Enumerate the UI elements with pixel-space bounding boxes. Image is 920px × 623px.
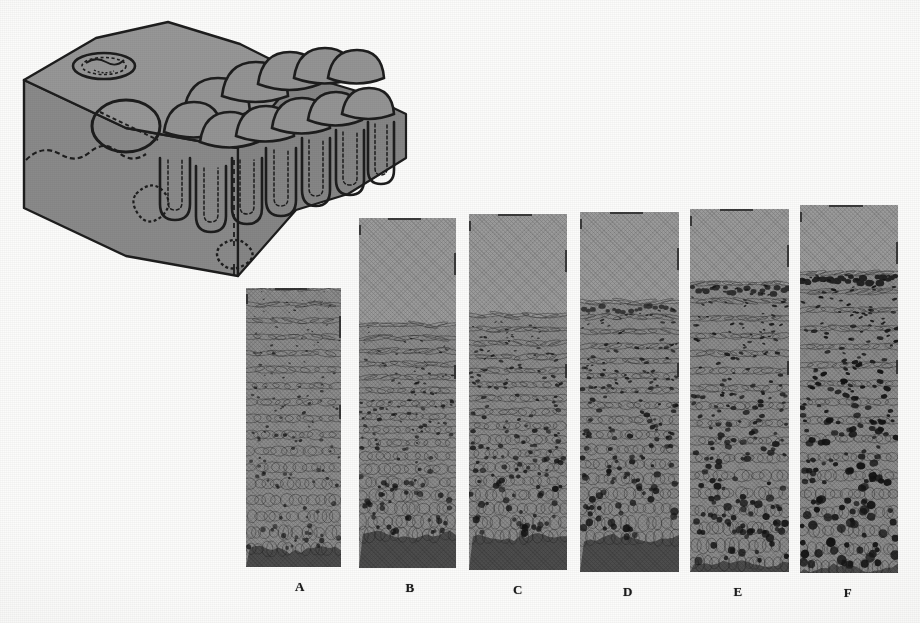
panel-c: [469, 214, 567, 570]
panel-label-c: C: [498, 582, 538, 598]
scan-edge-artifact: [896, 360, 898, 374]
histology-panel-strip: ABCDEF: [0, 0, 920, 623]
scan-edge-artifact: [800, 212, 802, 222]
panel-b-plate: [359, 218, 456, 568]
scan-edge-artifact: [677, 248, 679, 270]
scan-edge-artifact: [896, 242, 898, 264]
scan-edge-artifact: [677, 363, 679, 377]
scan-top-registration-bar: [610, 212, 644, 214]
panel-e-plate: [690, 209, 789, 572]
panel-d-plate: [580, 212, 679, 572]
scan-edge-artifact: [787, 245, 789, 267]
scan-edge-artifact: [565, 250, 567, 272]
panel-label-b: B: [390, 580, 430, 596]
panel-f-plate: [800, 205, 898, 573]
scan-edge-artifact: [339, 405, 341, 419]
scan-top-registration-bar: [388, 218, 421, 220]
panel-label-e: E: [718, 584, 758, 600]
scan-top-registration-bar: [275, 288, 307, 290]
scan-edge-artifact: [246, 294, 248, 304]
scan-edge-artifact: [454, 365, 456, 379]
scan-edge-artifact: [454, 253, 456, 275]
scan-top-registration-bar: [720, 209, 754, 211]
panel-label-d: D: [608, 584, 648, 600]
panel-c-plate: [469, 214, 567, 570]
scan-edge-artifact: [359, 225, 361, 235]
scan-edge-artifact: [690, 216, 692, 226]
panel-f: [800, 205, 898, 573]
panel-a-plate: [246, 288, 341, 567]
scan-top-registration-bar: [498, 214, 531, 216]
scan-top-registration-bar: [829, 205, 862, 207]
scan-edge-artifact: [580, 219, 582, 229]
scan-edge-artifact: [787, 361, 789, 375]
panel-b: [359, 218, 456, 568]
panel-e: [690, 209, 789, 572]
panel-d: [580, 212, 679, 572]
panel-a: [246, 288, 341, 567]
scan-edge-artifact: [469, 221, 471, 231]
panel-label-a: A: [280, 579, 320, 595]
panel-label-f: F: [828, 585, 868, 601]
scan-edge-artifact: [339, 316, 341, 338]
scientific-figure: ABCDEF: [0, 0, 920, 623]
scan-edge-artifact: [565, 364, 567, 378]
